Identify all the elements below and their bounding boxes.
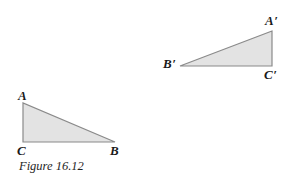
vertex-letter-b: B	[110, 143, 119, 158]
vertex-label-a-prime: A′	[265, 14, 278, 27]
vertex-letter-b-prime: B	[163, 56, 172, 71]
vertex-letter-c: C	[17, 143, 26, 158]
vertex-label-c: C	[17, 144, 26, 157]
vertex-label-b: B	[110, 144, 119, 157]
prime-mark-c: ′	[273, 67, 277, 82]
vertex-label-b-prime: B′	[163, 57, 176, 70]
triangle-A-prime-B-prime-C-prime-shape	[180, 31, 272, 66]
vertex-letter-a: A	[18, 88, 27, 103]
figure-container: A B C A′ B′ C′ Figure 16.12	[0, 0, 291, 186]
vertex-label-c-prime: C′	[264, 68, 277, 81]
prime-mark-b: ′	[172, 56, 176, 71]
vertex-letter-a-prime: A	[265, 13, 274, 28]
triangle-ABC-shape	[23, 103, 115, 142]
vertex-letter-c-prime: C	[264, 67, 273, 82]
prime-mark-a: ′	[274, 13, 278, 28]
vertex-label-a: A	[18, 89, 27, 102]
figure-caption: Figure 16.12	[19, 160, 84, 173]
